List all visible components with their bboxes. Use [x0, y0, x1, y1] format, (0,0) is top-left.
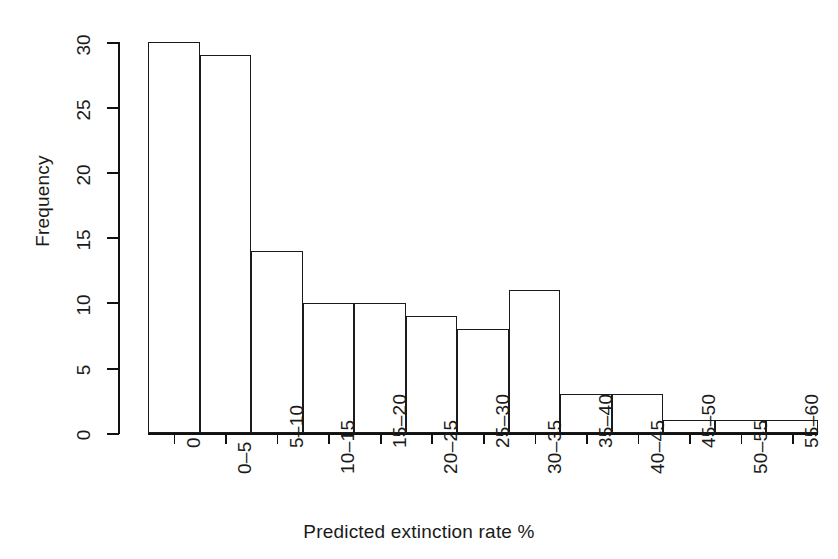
x-axis-title: Predicted extinction rate %: [0, 521, 838, 543]
x-tick-mark: [225, 433, 227, 444]
x-tick-label-group: 00–55–1010–1515–2020–2525–3030–3535–4040…: [0, 0, 838, 559]
x-tick-label: 15–20: [389, 394, 411, 448]
x-tick-label: 0: [183, 437, 205, 448]
x-tick-mark: [586, 433, 588, 444]
x-tick-mark: [483, 433, 485, 444]
x-tick-label: 0–5: [234, 441, 256, 474]
x-tick-mark: [689, 433, 691, 444]
x-tick-label: 55–60: [801, 394, 823, 448]
x-tick-mark: [277, 433, 279, 444]
x-tick-label: 25–30: [492, 394, 514, 448]
x-tick-mark: [380, 433, 382, 444]
x-tick-label: 35–40: [595, 394, 617, 448]
x-tick-mark: [174, 433, 176, 444]
x-tick-label: 10–15: [337, 420, 359, 474]
x-tick-mark: [638, 433, 640, 444]
x-tick-mark: [741, 433, 743, 444]
x-tick-mark: [792, 433, 794, 444]
x-tick-label: 45–50: [698, 394, 720, 448]
histogram-figure: Frequency 0 5 10 15 20 25 30 00–55–1010–…: [0, 0, 838, 559]
x-tick-label: 30–35: [544, 420, 566, 474]
x-tick-mark: [535, 433, 537, 444]
x-tick-label: 50–55: [750, 420, 772, 474]
x-tick-label: 40–45: [647, 420, 669, 474]
x-tick-mark: [431, 433, 433, 444]
x-tick-label: 20–25: [440, 420, 462, 474]
x-tick-label: 5–10: [286, 405, 308, 448]
x-tick-mark: [328, 433, 330, 444]
